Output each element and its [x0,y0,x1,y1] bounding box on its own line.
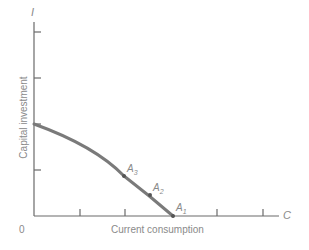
x-axis-label: Current consumption [111,224,204,235]
label-a3-text: A [127,163,134,174]
label-a3-sub: 3 [134,169,138,176]
label-a1: A1 [176,202,187,215]
y-axis-label: Capital investment [18,73,29,163]
y-axis-symbol: I [31,6,34,18]
chart-canvas [0,0,309,250]
label-a1-text: A [176,202,183,213]
frontier-curve [34,124,173,216]
label-a2: A2 [153,182,164,195]
label-a3: A3 [127,163,138,176]
label-a2-sub: 2 [160,188,164,195]
x-axis-symbol: C [283,209,291,221]
label-a1-sub: 1 [183,208,187,215]
point-a1 [171,214,175,218]
origin-label: 0 [19,224,25,235]
point-a3 [122,174,126,178]
label-a2-text: A [153,182,160,193]
point-a2 [148,193,152,197]
